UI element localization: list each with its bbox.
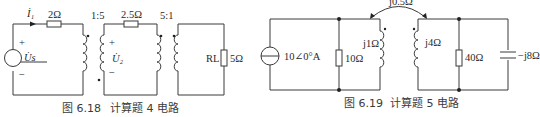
caption-number: 图 6.18: [62, 102, 101, 115]
caption-text: 计算题 4 电路: [110, 101, 179, 115]
r1-label: 10Ω: [345, 53, 364, 64]
mutual-coupling-arrow: [370, 7, 427, 20]
inductor-j1-icon: [380, 31, 384, 76]
figure-6-18: İ₁ 2Ω 1:5 2.5Ω 5:1 + − U̇s + − U̇₂ RL 5Ω…: [5, 8, 244, 115]
u2-plus: +: [109, 37, 115, 48]
load-value-label: 5Ω: [230, 53, 243, 64]
source-plus: +: [19, 37, 25, 48]
l1-label: j1Ω: [362, 38, 379, 49]
primary-network: [261, 17, 386, 92]
inductor-icon: [157, 35, 161, 81]
resistor-2ohm: [47, 21, 61, 27]
inductor-icon: [100, 35, 104, 81]
r1-label: 2Ω: [48, 9, 61, 20]
resistor-40ohm: [456, 50, 462, 66]
capacitor-icon: [500, 50, 516, 60]
source-label: U̇s: [24, 52, 36, 63]
current-label: İ₁: [26, 8, 34, 19]
source-minus: −: [19, 69, 25, 80]
figure-6-19: 10∠0°A 10Ω j1Ω j0.5Ω j4Ω 40Ω −j8Ω 图 6.19…: [261, 0, 540, 110]
source-value-label: 10∠0°A: [284, 51, 321, 62]
capacitor-label: −j8Ω: [518, 50, 540, 61]
inductor-icon: [83, 35, 87, 81]
inductor-icon: [174, 35, 178, 81]
current-arrow-icon: [30, 22, 36, 27]
ratio1-label: 1:5: [91, 10, 104, 21]
circuit-diagrams: İ₁ 2Ω 1:5 2.5Ω 5:1 + − U̇s + − U̇₂ RL 5Ω…: [0, 0, 540, 117]
middle-loop: [98, 21, 163, 95]
l2-label: j4Ω: [424, 37, 441, 48]
load-name-label: RL: [206, 53, 219, 64]
mutual-label: j0.5Ω: [388, 0, 413, 7]
caption-number: 图 6.19: [344, 97, 383, 110]
primary-loop: [5, 21, 90, 95]
resistor-2-5ohm: [124, 21, 138, 27]
u2-minus: −: [109, 67, 115, 78]
caption-text: 计算题 5 电路: [390, 96, 459, 110]
inductor-j4-icon: [414, 31, 418, 76]
ratio2-label: 5:1: [160, 10, 173, 21]
resistor-10ohm: [336, 50, 342, 66]
r2-label: 40Ω: [465, 52, 484, 63]
load-resistor: [221, 50, 227, 66]
r2-label: 2.5Ω: [121, 9, 142, 20]
u2-label: U̇₂: [112, 53, 124, 64]
voltage-source-icon: [5, 50, 22, 67]
